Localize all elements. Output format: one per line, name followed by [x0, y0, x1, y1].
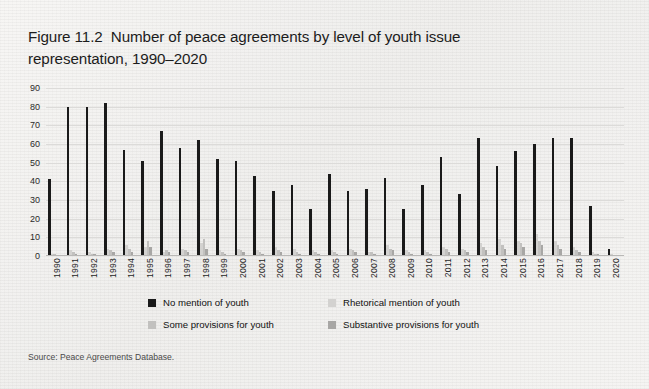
x-tick-label-2014: 2014 [499, 258, 509, 278]
x-tick-label-2007: 2007 [369, 258, 379, 278]
x-tick-label-2013: 2013 [480, 258, 490, 278]
x-tick-label-2015: 2015 [518, 258, 528, 278]
bar-group-1998[interactable] [197, 88, 212, 256]
y-tick-label-0: 0 [35, 251, 40, 261]
bar-group-2004[interactable] [309, 88, 324, 256]
legend-swatch-substantive [328, 321, 336, 329]
x-tick-label-1999: 1999 [219, 258, 229, 278]
source-note: Source: Peace Agreements Database. [28, 352, 174, 362]
bar-group-2016[interactable] [533, 88, 548, 256]
x-tick-label-1994: 1994 [126, 258, 136, 278]
figure-title: Figure 11.2 Number of peace agreements b… [28, 26, 568, 69]
figure-title-line-2: representation, 1990–2020 [28, 48, 568, 70]
x-tick-label-2020: 2020 [611, 258, 621, 278]
bar-group-2014[interactable] [496, 88, 511, 256]
bar-group-2019[interactable] [589, 88, 604, 256]
bar-group-2000[interactable] [235, 88, 250, 256]
bar-group-2005[interactable] [328, 88, 343, 256]
bar-2011-series-0[interactable] [440, 157, 443, 256]
bar-group-1995[interactable] [141, 88, 156, 256]
bar-group-1990[interactable] [48, 88, 63, 256]
x-axis-tick-labels: 1990199119921993199419951996199719981999… [46, 258, 624, 296]
x-tick-label-2016: 2016 [536, 258, 546, 278]
bar-2013-series-0[interactable] [477, 138, 480, 256]
bar-group-1996[interactable] [160, 88, 175, 256]
bar-1991-series-0[interactable] [67, 107, 70, 256]
bar-1995-series-0[interactable] [141, 161, 144, 256]
x-tick-label-2002: 2002 [275, 258, 285, 278]
bar-group-2011[interactable] [440, 88, 455, 256]
x-tick-label-1995: 1995 [145, 258, 155, 278]
y-tick-label-20: 20 [30, 214, 40, 224]
bar-2006-series-0[interactable] [347, 191, 350, 256]
bar-group-1993[interactable] [104, 88, 119, 256]
y-tick-label-30: 30 [30, 195, 40, 205]
legend-label-2: Some provisions for youth [163, 319, 274, 330]
x-tick-label-2005: 2005 [331, 258, 341, 278]
bar-group-2020[interactable] [608, 88, 623, 256]
bar-1998-series-0[interactable] [197, 140, 200, 256]
x-tick-label-1990: 1990 [52, 258, 62, 278]
bar-group-1991[interactable] [67, 88, 82, 256]
x-tick-label-1991: 1991 [70, 258, 80, 278]
bar-2003-series-0[interactable] [291, 185, 294, 256]
bar-1996-series-0[interactable] [160, 131, 163, 256]
legend-item-1[interactable]: Rhetorical mention of youth [328, 297, 518, 308]
bar-group-1999[interactable] [216, 88, 231, 256]
bar-2007-series-0[interactable] [365, 189, 368, 256]
bar-group-2009[interactable] [402, 88, 417, 256]
x-axis-baseline [46, 255, 624, 256]
legend-label-1: Rhetorical mention of youth [343, 297, 460, 308]
bar-group-2008[interactable] [384, 88, 399, 256]
x-tick-label-2008: 2008 [387, 258, 397, 278]
x-tick-label-2003: 2003 [294, 258, 304, 278]
legend-item-3[interactable]: Substantive provisions for youth [328, 319, 518, 330]
bar-2001-series-0[interactable] [253, 176, 256, 256]
bar-1997-series-0[interactable] [179, 148, 182, 256]
bar-group-1997[interactable] [179, 88, 194, 256]
bar-group-2012[interactable] [458, 88, 473, 256]
bar-group-1992[interactable] [86, 88, 101, 256]
y-tick-label-50: 50 [30, 158, 40, 168]
bar-2004-series-0[interactable] [309, 209, 312, 256]
bar-1993-series-0[interactable] [104, 103, 107, 256]
bar-group-2003[interactable] [291, 88, 306, 256]
bar-1990-series-0[interactable] [48, 179, 51, 256]
chart-legend: No mention of youthRhetorical mention of… [148, 297, 518, 330]
bar-group-2018[interactable] [570, 88, 585, 256]
bar-2012-series-0[interactable] [458, 194, 461, 256]
bar-group-2013[interactable] [477, 88, 492, 256]
bar-group-1994[interactable] [123, 88, 138, 256]
bar-1999-series-0[interactable] [216, 159, 219, 256]
y-tick-label-40: 40 [30, 176, 40, 186]
x-tick-label-2018: 2018 [574, 258, 584, 278]
x-tick-label-2004: 2004 [313, 258, 323, 278]
x-tick-label-1992: 1992 [89, 258, 99, 278]
bar-2019-series-0[interactable] [589, 206, 592, 256]
bar-2005-series-0[interactable] [328, 174, 331, 256]
bar-group-2006[interactable] [347, 88, 362, 256]
bar-1994-series-0[interactable] [123, 150, 126, 256]
legend-item-2[interactable]: Some provisions for youth [148, 319, 328, 330]
x-tick-label-2017: 2017 [555, 258, 565, 278]
x-tick-label-2000: 2000 [238, 258, 248, 278]
bar-2017-series-0[interactable] [552, 138, 555, 256]
bar-group-2010[interactable] [421, 88, 436, 256]
x-tick-label-1996: 1996 [163, 258, 173, 278]
y-tick-label-70: 70 [30, 120, 40, 130]
bar-group-2002[interactable] [272, 88, 287, 256]
bar-group-2015[interactable] [514, 88, 529, 256]
bar-group-2017[interactable] [552, 88, 567, 256]
bar-group-2001[interactable] [253, 88, 268, 256]
y-tick-label-60: 60 [30, 139, 40, 149]
bar-2000-series-0[interactable] [235, 161, 238, 256]
bar-1992-series-0[interactable] [86, 107, 89, 256]
bar-2010-series-0[interactable] [421, 185, 424, 256]
legend-item-0[interactable]: No mention of youth [148, 297, 328, 308]
x-tick-label-1993: 1993 [108, 258, 118, 278]
x-tick-label-2010: 2010 [424, 258, 434, 278]
bar-group-2007[interactable] [365, 88, 380, 256]
x-tick-label-2006: 2006 [350, 258, 360, 278]
bar-2009-series-0[interactable] [402, 209, 405, 256]
bar-2018-series-0[interactable] [570, 138, 573, 256]
